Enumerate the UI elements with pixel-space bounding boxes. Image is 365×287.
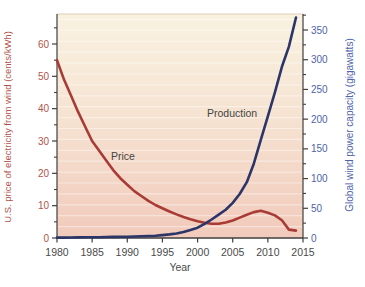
wind-price-capacity-figure: 0102030405060050100150200250300350198019… [0,0,365,287]
right-axis-tick-label: 0 [311,233,317,244]
x-axis-tick-label: 2010 [256,246,280,258]
x-axis-tick-label: 2000 [186,246,210,258]
left-axis-title: U.S. price of electricity from wind (cen… [2,31,13,223]
right-axis-tick-label: 250 [311,84,328,95]
left-axis-tick-label: 50 [38,71,50,82]
right-axis-tick-label: 100 [311,173,328,184]
x-axis-tick-label: 1985 [80,246,104,258]
left-axis-tick-label: 40 [38,103,50,114]
wind-price-capacity-chart: 0102030405060050100150200250300350198019… [0,0,365,287]
x-axis-tick-label: 2015 [291,246,315,258]
x-axis-tick-label: 1980 [45,246,69,258]
x-axis-tick-label: 2005 [221,246,245,258]
x-axis-tick-label: 1995 [151,246,175,258]
left-axis-tick-label: 60 [38,39,50,50]
left-axis-tick-label: 0 [43,233,49,244]
right-axis-tick-label: 50 [311,203,323,214]
x-axis-tick-label: 1990 [116,246,140,258]
left-axis-tick-label: 30 [38,136,50,147]
right-axis-tick-label: 150 [311,143,328,154]
right-axis-tick-label: 300 [311,54,328,65]
right-axis-tick-label: 200 [311,114,328,125]
production-label: Production [207,107,257,119]
price-label: Price [111,150,135,162]
right-axis-title: Global wind power capacity (gigawatts) [344,38,355,211]
left-axis-tick-label: 20 [38,168,50,179]
right-axis-tick-label: 350 [311,25,328,36]
x-axis-title: Year [169,261,191,273]
left-axis-tick-label: 10 [38,200,50,211]
